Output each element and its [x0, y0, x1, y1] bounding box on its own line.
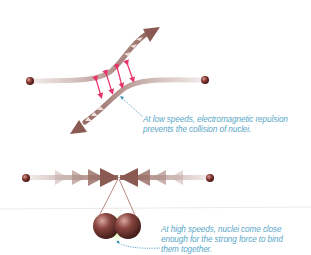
nucleus-right-bottom — [206, 174, 214, 182]
caption-line: At low speeds, electromagnetic repulsion — [143, 115, 288, 125]
pointer-high — [119, 243, 160, 248]
nucleus-left-top — [26, 77, 34, 85]
caption-line: prevents the collision of nuclei. — [143, 125, 288, 135]
fused-nucleus-right — [115, 213, 141, 239]
caption-line: them together. — [161, 245, 283, 255]
caption-line: At high speeds, nuclei come close — [161, 225, 283, 235]
pointer-low — [122, 98, 143, 117]
divider — [0, 207, 311, 209]
nucleus-right-top — [201, 76, 209, 84]
caption-low-speed: At low speeds, electromagnetic repulsion… — [143, 115, 288, 135]
caption-high-speed: At high speeds, nuclei come close enough… — [161, 225, 283, 255]
caption-line: enough for the strong force to bind — [161, 235, 283, 245]
nucleus-left-bottom — [22, 174, 30, 182]
deflected-path-up — [32, 35, 145, 81]
